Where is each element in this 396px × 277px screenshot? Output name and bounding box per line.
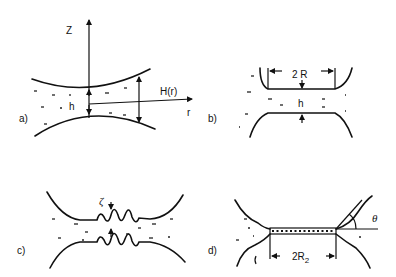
lower-right-body: [336, 234, 370, 268]
lower-surface: [35, 116, 155, 136]
upper-surface: [32, 69, 150, 87]
liquid-dashes: [239, 76, 346, 127]
panel-d: 2R2 θ d): [208, 196, 378, 268]
upper-right-body: [336, 196, 372, 229]
lower-left-body: [237, 234, 270, 266]
2R-label: 2 R: [292, 69, 308, 80]
h-label: h: [298, 98, 304, 109]
h-label: h: [69, 101, 75, 112]
r-axis-label: r: [187, 107, 191, 118]
diagram-canvas: Z r h H(r) a) 2 R h: [0, 0, 396, 277]
panel-a-label: a): [19, 113, 28, 124]
panel-c-label: c): [17, 245, 25, 256]
theta-label: θ: [372, 212, 378, 224]
crack-mark: [255, 256, 256, 264]
panel-b: 2 R h b): [208, 68, 352, 137]
upper-surface: [47, 192, 183, 222]
lower-surface: [50, 234, 185, 269]
zeta-label: ζ: [99, 195, 105, 208]
liquid-dashes: [34, 88, 127, 124]
panel-b-label: b): [208, 113, 217, 124]
z-axis-label: Z: [66, 25, 72, 36]
2R2-label: 2R2: [292, 251, 310, 265]
panel-d-label: d): [208, 245, 217, 256]
H-r-label: H(r): [160, 86, 177, 97]
r-axis: [89, 99, 192, 104]
panel-c: ζ c): [17, 192, 185, 268]
upper-left-body: [235, 200, 270, 229]
lower-body: [250, 113, 352, 137]
panel-a: Z r h H(r) a): [19, 20, 192, 136]
